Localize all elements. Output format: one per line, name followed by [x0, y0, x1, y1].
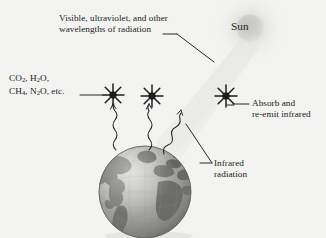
molecule-center — [141, 85, 163, 107]
formula-co2-base: CO — [9, 73, 22, 83]
formula-h2o-base: , H — [25, 73, 36, 83]
label-greenhouse-gases-line2: CH4, N2O, etc. — [9, 86, 65, 99]
label-visible-radiation-line2: wavelengths of radiation — [59, 24, 168, 35]
label-infrared-radiation: Infrared radiation — [214, 158, 247, 181]
molecule-left — [102, 84, 124, 106]
formula-n2o-base: , N — [25, 86, 36, 96]
greenhouse-effect-diagram: Visible, ultraviolet, and other waveleng… — [0, 0, 326, 238]
label-greenhouse-gases: CO2, H2O, CH4, N2O, etc. — [9, 73, 65, 98]
label-infrared-radiation-line2: radiation — [214, 169, 247, 180]
formula-ch4-base: CH — [9, 86, 22, 96]
label-sun: Sun — [231, 21, 249, 32]
label-visible-radiation: Visible, ultraviolet, and other waveleng… — [59, 13, 168, 36]
earth-highlight — [99, 146, 191, 238]
label-absorb-reemit-line1: Absorb and — [252, 98, 311, 109]
label-greenhouse-gases-line1: CO2, H2O, — [9, 73, 65, 86]
label-absorb-reemit: Absorb and re-emit infrared — [252, 98, 311, 121]
label-infrared-radiation-line1: Infrared — [214, 158, 247, 169]
formula-n2o-tail: O, etc. — [40, 86, 65, 96]
label-absorb-reemit-line2: re-emit infrared — [252, 109, 311, 120]
formula-h2o-tail: O, — [40, 73, 49, 83]
label-visible-radiation-line1: Visible, ultraviolet, and other — [59, 13, 168, 24]
